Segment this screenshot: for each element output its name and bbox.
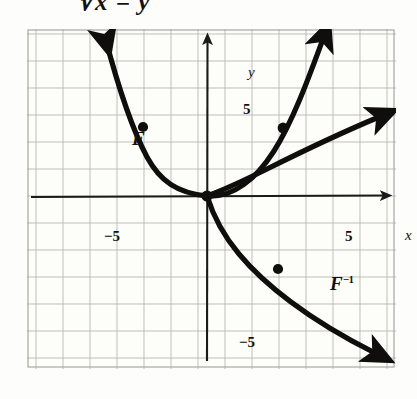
- x-axis-tick-5: 5: [345, 229, 353, 244]
- equation-text: ∛x = y: [78, 0, 150, 16]
- curve-label-F-inverse-exponent: −1: [343, 273, 354, 285]
- graph-canvas: [27, 29, 396, 369]
- graph-page: ∛x = y: [0, 0, 417, 399]
- curve-label-F-inverse: F−1: [330, 274, 353, 293]
- point-intersection: [278, 123, 289, 134]
- y-axis-tick-5: 5: [243, 102, 251, 117]
- plot-frame: y x 5 −5 −5 5 F F−1: [27, 29, 396, 369]
- curve-label-F-inverse-text: F: [330, 273, 343, 294]
- x-axis-tick-minus-5: −5: [104, 229, 120, 244]
- point-on-curve-F-inverse: [273, 264, 283, 274]
- y-axis-tick-minus-5: −5: [239, 335, 255, 350]
- equation-strip: ∛x = y: [0, 0, 417, 16]
- x-axis-label: x: [405, 228, 412, 243]
- curve-label-F: F: [132, 129, 145, 148]
- curve-label-F-text: F: [132, 128, 145, 149]
- y-axis-label: y: [248, 65, 255, 80]
- point-origin-node: [201, 190, 212, 201]
